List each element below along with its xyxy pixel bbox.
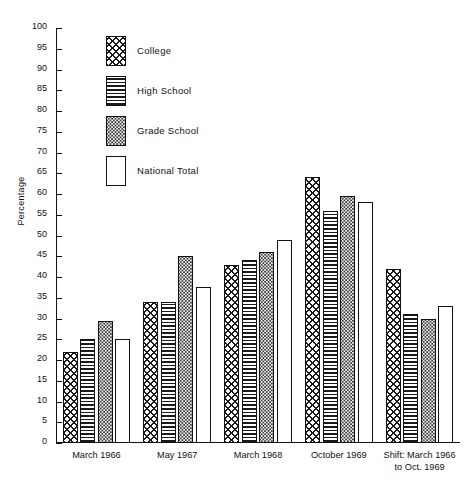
y-tick-label: 30: [15, 312, 47, 322]
legend-item-high-school: High School: [106, 76, 266, 108]
bar-grade-school-5: [421, 319, 436, 444]
y-tick-label: 55: [15, 208, 47, 218]
bar-college-4: [305, 177, 320, 443]
legend-item-national-total: National Total: [106, 156, 266, 188]
y-tick-label: 85: [15, 83, 47, 93]
y-tick-label: 25: [15, 332, 47, 342]
bar-college-1: [63, 352, 78, 443]
bar-college-3: [224, 265, 239, 443]
legend-label: National Total: [137, 165, 199, 176]
bar-college-5: [386, 269, 401, 443]
legend-swatch-solid-white: [106, 156, 126, 186]
legend-item-grade-school: Grade School: [106, 116, 266, 148]
bar-college-2: [143, 302, 158, 443]
y-tick-label: 20: [15, 353, 47, 363]
legend-item-college: College: [106, 36, 266, 68]
y-tick-label: 95: [15, 42, 47, 52]
bar-group-4: [305, 28, 373, 443]
y-tick-label: 0: [15, 436, 47, 446]
x-axis-label-5: Shift: March 1966to Oct. 1969: [360, 449, 475, 473]
bar-grade-school-4: [340, 196, 355, 443]
y-tick-label: 80: [15, 104, 47, 114]
y-tick-label: 10: [15, 395, 47, 405]
y-tick-label: 100: [15, 21, 47, 31]
y-tick-label: 65: [15, 166, 47, 176]
bar-national-total-5: [438, 306, 453, 443]
y-tick-label: 40: [15, 270, 47, 280]
x-axis-labels: March 1966May 1967March 1968October 1969…: [56, 449, 460, 481]
x-axis-label-line: to Oct. 1969: [360, 461, 475, 473]
legend-label: College: [137, 45, 171, 56]
legend-swatch-stipple-dots: [106, 116, 126, 146]
legend-swatch-horizontal-lines: [106, 76, 126, 106]
bar-grade-school-3: [259, 252, 274, 443]
bar-grade-school-1: [98, 321, 113, 443]
y-tick-label: 5: [15, 415, 47, 425]
bar-high-school-2: [161, 302, 176, 443]
y-tick-label: 15: [15, 374, 47, 384]
y-tick-label: 60: [15, 187, 47, 197]
y-tick-label: 90: [15, 63, 47, 73]
bar-national-total-1: [115, 339, 130, 443]
y-tick-mark: [56, 443, 62, 444]
legend-swatch-crosshatch: [106, 36, 126, 66]
y-tick-label: 75: [15, 125, 47, 135]
legend-label: High School: [137, 85, 192, 96]
bar-high-school-4: [323, 211, 338, 443]
bar-grade-school-2: [178, 256, 193, 443]
y-tick-label: 50: [15, 229, 47, 239]
bar-high-school-1: [80, 339, 95, 443]
bar-group-5: [386, 28, 454, 443]
bar-high-school-3: [242, 260, 257, 443]
bar-national-total-4: [358, 202, 373, 443]
chart-legend: CollegeHigh SchoolGrade SchoolNational T…: [106, 36, 266, 196]
x-axis-label-line: Shift: March 1966: [360, 449, 475, 461]
legend-label: Grade School: [137, 125, 199, 136]
bar-national-total-2: [196, 287, 211, 443]
y-tick-label: 45: [15, 249, 47, 259]
y-tick-label: 70: [15, 146, 47, 156]
bar-high-school-5: [403, 314, 418, 443]
bar-chart: Percentage 05101520253035404550556065707…: [0, 0, 475, 481]
y-tick-label: 35: [15, 291, 47, 301]
bar-national-total-3: [277, 240, 292, 443]
